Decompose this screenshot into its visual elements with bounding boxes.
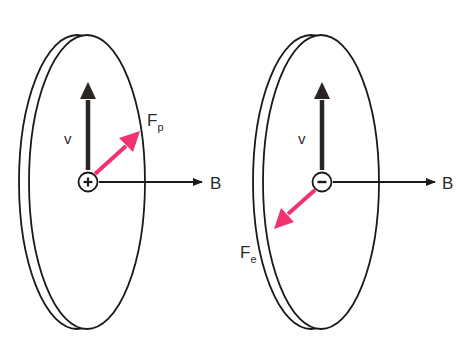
lorentz-force-diagram: v Fp B v (0, 0, 471, 345)
negative-charge-icon (313, 173, 332, 192)
field-label: B (210, 174, 221, 193)
right-panel-electron: v Fe B (240, 35, 453, 329)
force-label: Fe (240, 243, 257, 265)
field-label: B (442, 174, 453, 193)
velocity-label: v (298, 130, 306, 147)
force-subscript: e (250, 253, 256, 265)
force-label: Fp (147, 111, 164, 133)
force-subscript: p (157, 121, 163, 133)
velocity-label: v (64, 130, 72, 147)
positive-charge-icon (79, 173, 98, 192)
left-panel-proton: v Fp B (19, 35, 221, 329)
